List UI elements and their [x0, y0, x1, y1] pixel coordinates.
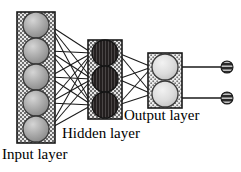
connections-output-terminals — [179, 67, 222, 98]
output-node — [152, 81, 178, 107]
terminal-symbol-icon — [221, 92, 233, 104]
input-node — [23, 64, 49, 90]
output-layer-label: Output layer — [124, 108, 199, 123]
input-node — [23, 12, 49, 38]
layer-nodes-hidden — [92, 40, 118, 118]
output-terminals — [221, 61, 233, 104]
hidden-layer-label: Hidden layer — [62, 126, 140, 141]
layer-nodes-input — [23, 12, 49, 142]
hidden-node — [92, 40, 118, 66]
input-node — [23, 116, 49, 142]
input-node — [23, 90, 49, 116]
output-node — [152, 54, 178, 80]
hidden-node — [92, 92, 118, 118]
neural-network-diagram: Input layer Hidden layer Output layer — [0, 0, 241, 172]
hidden-node — [92, 66, 118, 92]
input-node — [23, 38, 49, 64]
input-layer-label: Input layer — [2, 147, 67, 162]
connections-hidden-output — [118, 53, 152, 105]
terminal-symbol-icon — [221, 61, 233, 73]
